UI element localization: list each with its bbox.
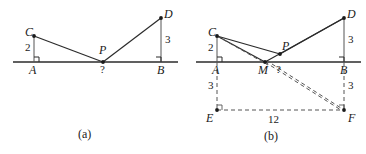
panel-a-length-CA: 2: [25, 42, 31, 53]
panel-b-dashed-PF: [272, 64, 341, 108]
geometry-figure: [0, 0, 366, 154]
panel-b-dashed-CM: [217, 36, 268, 65]
panel-b-label-E: E: [206, 112, 213, 124]
panel-a-label-C: C: [25, 26, 33, 38]
panel-b-length-DB: 3: [348, 34, 354, 45]
panel-b-segment-PD: [280, 18, 344, 54]
panel-b-label-B: B: [340, 64, 347, 76]
panel-b-label-F: F: [348, 112, 355, 124]
panel-b-length-AE: 3: [208, 80, 214, 91]
panel-a-label-A: A: [29, 64, 36, 76]
panel-a-caption: (a): [78, 128, 91, 140]
panel-b-unknown-marker: ?: [276, 64, 281, 75]
panel-a-unknown-marker: ?: [100, 64, 105, 75]
panel-a-label-D: D: [164, 8, 173, 20]
panel-b-length-CA: 2: [208, 42, 214, 53]
panel-b-vertex-E: [215, 108, 219, 112]
panel-b-segment-CP: [217, 36, 280, 54]
panel-a: [13, 16, 178, 64]
panel-b-label-A: A: [212, 64, 219, 76]
panel-b-vertex-D: [342, 16, 346, 20]
panel-b-caption: (b): [264, 130, 278, 142]
panel-a-segment-PD: [103, 18, 161, 62]
panel-b-vertex-F: [342, 108, 346, 112]
panel-a-length-DB: 3: [165, 34, 171, 45]
panel-b-label-C: C: [208, 26, 216, 38]
panel-a-label-B: B: [157, 64, 164, 76]
panel-a-segment-CP: [34, 36, 103, 62]
panel-a-vertex-D: [159, 16, 163, 20]
panel-b-label-D: D: [347, 8, 356, 20]
panel-b-length-EF: 12: [268, 114, 279, 125]
panel-b-length-BF: 3: [348, 80, 354, 91]
panel-a-label-P: P: [99, 44, 106, 56]
panel-b-label-M: M: [258, 64, 268, 76]
panel-b-label-P: P: [282, 40, 289, 52]
